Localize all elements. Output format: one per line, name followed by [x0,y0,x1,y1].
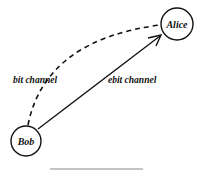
bit-channel-label: bit channel [13,75,57,85]
node-alice-label: Alice [165,19,188,30]
node-bob: Bob [11,126,41,156]
ebit-channel-label: ebit channel [108,75,157,85]
node-alice: Alice [161,8,193,40]
diagram-canvas: Alice Bob bit channel ebit channel [0,0,200,179]
diagram-svg: Alice Bob bit channel ebit channel [0,0,200,179]
node-bob-label: Bob [17,136,35,147]
